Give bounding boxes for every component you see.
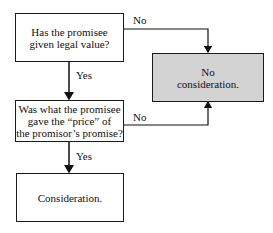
node-no-consideration: No consideration. <box>152 53 264 102</box>
edge-label-q1-yes: Yes <box>76 69 92 81</box>
node-consideration: Consideration. <box>16 173 124 222</box>
node-consideration-text: Consideration. <box>38 192 102 204</box>
flowchart: Has the promisee given legal value? Was … <box>0 0 273 233</box>
node-q1-line: given legal value? <box>29 38 109 50</box>
edge-label-q2-yes: Yes <box>76 150 92 162</box>
node-no-consideration-line: consideration. <box>177 78 239 90</box>
node-q2: Was what the promisee gave the “price” o… <box>15 100 124 142</box>
node-q1: Has the promisee given legal value? <box>15 13 124 62</box>
node-q2-line: gave the “price” of <box>16 115 123 127</box>
node-no-consideration-line: No <box>177 66 239 78</box>
arrow-q1-no <box>123 29 208 52</box>
node-q1-line: Has the promisee <box>29 26 109 38</box>
node-q2-line: Was what the promisee <box>16 103 123 115</box>
node-q2-line: the promisor’s promise? <box>16 127 123 139</box>
edge-label-q1-no: No <box>133 14 146 26</box>
edge-label-q2-no: No <box>133 111 146 123</box>
